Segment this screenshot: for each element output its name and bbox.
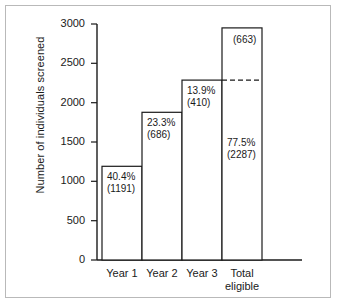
annotation-total-eligible-remainder: (663) xyxy=(233,34,256,46)
annotation-total-percent: 77.5% xyxy=(227,137,256,149)
y-tick-label-2500: 2500 xyxy=(39,57,85,68)
annotation-total-count: (2287) xyxy=(227,149,256,161)
y-tick-label-500: 500 xyxy=(39,215,85,226)
annotation-year-2: 23.3% (686) xyxy=(147,117,175,141)
annotation-remainder-count: (663) xyxy=(233,34,256,46)
annotation-year-3: 13.9% (410) xyxy=(187,85,215,109)
figure-container: Number of individuals screened 3000 2500… xyxy=(0,0,337,304)
annotation-year-3-count: (410) xyxy=(187,97,215,109)
y-tick-label-0: 0 xyxy=(39,254,85,265)
figure-frame: Number of individuals screened 3000 2500… xyxy=(5,5,331,298)
annotation-year-2-percent: 23.3% xyxy=(147,117,175,129)
y-tick-label-3000: 3000 xyxy=(39,18,85,29)
y-tick-label-1000: 1000 xyxy=(39,175,85,186)
annotation-year-1-percent: 40.4% xyxy=(107,171,135,183)
y-tick-label-1500: 1500 xyxy=(39,136,85,147)
annotation-year-2-count: (686) xyxy=(147,129,175,141)
x-label-total-eligible-line1: Total xyxy=(212,267,272,279)
x-label-total-eligible-line2: eligible xyxy=(212,280,272,292)
y-tick-label-2000: 2000 xyxy=(39,97,85,108)
annotation-total-eligible-cumulative: 77.5% (2287) xyxy=(227,137,256,161)
annotation-year-3-percent: 13.9% xyxy=(187,85,215,97)
annotation-year-1-count: (1191) xyxy=(107,183,135,195)
y-tick-marks xyxy=(91,24,97,260)
annotation-year-1: 40.4% (1191) xyxy=(107,171,135,195)
